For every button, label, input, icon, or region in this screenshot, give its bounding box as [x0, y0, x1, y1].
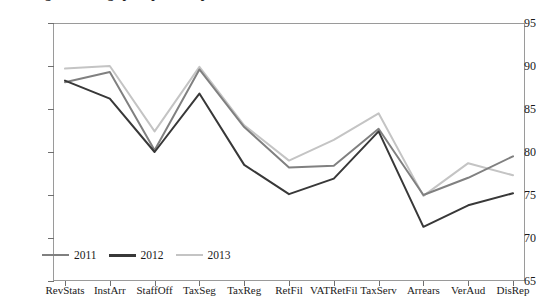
y-axis-tick-mark — [48, 152, 54, 153]
legend-label-2013: 2013 — [208, 249, 231, 261]
legend-swatch-2013 — [176, 254, 203, 256]
plot-area-frame — [53, 23, 525, 281]
x-axis-tick-mark — [155, 281, 156, 286]
y-axis-tick-mark — [48, 238, 54, 239]
legend-label-2011: 2011 — [74, 249, 97, 261]
legend-swatch-2012 — [109, 254, 136, 257]
line-chart: Figure: Average perceptions of performan… — [0, 0, 536, 303]
y-axis-tick-label: 80 — [492, 145, 536, 160]
x-axis-tick-mark — [65, 281, 66, 286]
x-axis-tick-mark — [244, 281, 245, 286]
legend-swatch-2011 — [42, 254, 69, 256]
y-axis-tick-mark — [48, 23, 54, 24]
y-axis-tick-label: 95 — [492, 16, 536, 31]
x-axis-tick-mark — [379, 281, 380, 286]
y-axis-tick-label: 85 — [492, 102, 536, 117]
legend-item-2012: 2012 — [109, 249, 164, 261]
y-axis-tick-mark — [48, 195, 54, 196]
y-axis-tick-label: 75 — [492, 188, 536, 203]
x-axis-tick-mark — [334, 281, 335, 286]
y-axis-tick-label: 70 — [492, 231, 536, 246]
legend-label-2012: 2012 — [141, 249, 164, 261]
x-axis-tick-mark — [423, 281, 424, 286]
legend-item-2013: 2013 — [176, 249, 231, 261]
x-axis-tick-mark — [199, 281, 200, 286]
legend-item-2011: 2011 — [42, 249, 97, 261]
y-axis-tick-label: 90 — [492, 59, 536, 74]
x-axis-tick-mark — [468, 281, 469, 286]
x-axis-tick-mark — [513, 281, 514, 286]
chart-title: Figure: Average perceptions of performan… — [34, 0, 514, 1]
x-axis-tick-mark — [110, 281, 111, 286]
y-axis-tick-mark — [48, 109, 54, 110]
chart-legend: 201120122013 — [42, 249, 231, 261]
y-axis-tick-mark — [48, 281, 54, 282]
y-axis-tick-mark — [48, 66, 54, 67]
x-axis-tick-mark — [289, 281, 290, 286]
